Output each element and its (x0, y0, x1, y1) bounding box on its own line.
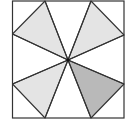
triangle-bottom-left (13, 60, 69, 118)
geometry-diagram (0, 0, 128, 125)
triangle-top-right (68, 1, 124, 60)
triangle-bottom-right (68, 60, 124, 118)
triangle-top-left (13, 1, 69, 60)
center-point (66, 58, 69, 61)
